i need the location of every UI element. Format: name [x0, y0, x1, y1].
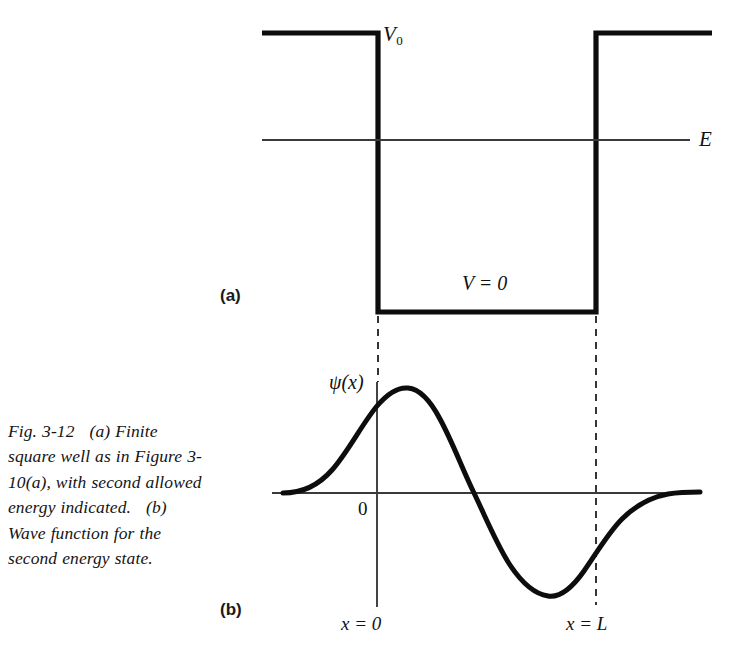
figure-caption: Fig. 3-12 (a) Finite square well as in F… — [8, 419, 204, 571]
right-wall-tick-label: x = L — [566, 613, 607, 635]
wavefunction-axis-label: ψ(x) — [329, 371, 364, 394]
panel-b-wavefunction — [272, 382, 700, 607]
origin-label: 0 — [358, 498, 368, 520]
wall-alignment-guides — [378, 316, 596, 605]
figure-3-12: Fig. 3-12 (a) Finite square well as in F… — [0, 0, 734, 659]
panel-a-potential-well — [262, 33, 712, 312]
energy-level-label: E — [699, 127, 712, 152]
panel-label-b: (b) — [220, 600, 242, 620]
panel-label-a: (a) — [220, 286, 241, 306]
well-bottom-label: V = 0 — [462, 272, 507, 295]
barrier-height-label: V0 — [383, 22, 403, 49]
potential-well-outline — [262, 33, 712, 312]
left-wall-tick-label: x = 0 — [341, 613, 381, 635]
